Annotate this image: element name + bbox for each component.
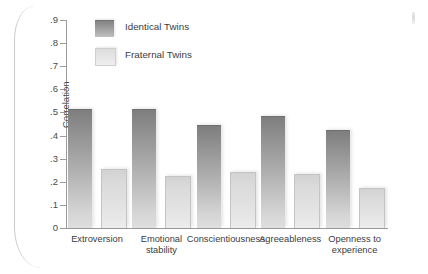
y-axis-tick-label: 0 xyxy=(44,222,58,233)
x-axis-line xyxy=(66,228,388,229)
y-axis-tick-label: .1 xyxy=(44,199,58,210)
legend-label-fraternal-twins: Fraternal Twins xyxy=(125,49,192,60)
figure-bar-chart-twin-correlations: .9.8.7.6.5.4.3.2.10 Correlation Extrover… xyxy=(0,0,428,274)
scan-artifact-mark xyxy=(412,12,415,24)
bar-identical-twins xyxy=(132,109,156,228)
legend-label-identical-twins: Identical Twins xyxy=(125,21,189,32)
bar-identical-twins xyxy=(197,125,221,228)
y-axis-tick-label: .4 xyxy=(44,130,58,141)
y-axis-tick-label: .3 xyxy=(44,153,58,164)
bar-identical-twins xyxy=(261,116,285,228)
bar-identical-twins xyxy=(68,109,92,228)
bar-fraternal-twins xyxy=(165,176,191,228)
page-scan-edge xyxy=(14,6,41,268)
bar-fraternal-twins xyxy=(101,169,127,228)
bar-fraternal-twins xyxy=(359,188,385,228)
y-axis-tick-label: .2 xyxy=(44,176,58,187)
legend-swatch-fraternal-twins xyxy=(95,48,116,66)
x-axis-category-label-line: stability xyxy=(115,245,207,256)
y-axis-tick-label: .6 xyxy=(44,83,58,94)
x-axis-category-label: Openness toexperience xyxy=(309,234,401,256)
bar-fraternal-twins xyxy=(230,172,256,228)
bar-identical-twins xyxy=(326,130,350,228)
y-axis-tick xyxy=(60,228,66,229)
y-axis-tick-label: .8 xyxy=(44,37,58,48)
bar-fraternal-twins xyxy=(294,174,320,228)
y-axis-tick-label: .9 xyxy=(44,14,58,25)
x-axis-category-label-line: Openness to xyxy=(309,234,401,245)
y-axis-tick-label: .7 xyxy=(44,60,58,71)
legend-swatch-identical-twins xyxy=(95,20,114,37)
x-axis-category-label-line: experience xyxy=(309,245,401,256)
y-axis-tick-label: .5 xyxy=(44,106,58,117)
